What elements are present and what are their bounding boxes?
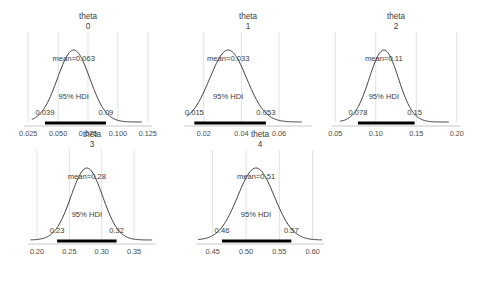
mean-label: mean=0.11 [365, 54, 403, 63]
x-tick-label: 0.05 [328, 129, 342, 138]
x-tick-label: 0.55 [272, 247, 286, 256]
x-tick-label: 0.50 [239, 247, 253, 256]
hdi-high-label: 0.57 [284, 226, 299, 235]
panel-title: theta3 [28, 130, 156, 149]
mean-label: mean=0.033 [207, 54, 249, 63]
density-plot-area [28, 150, 156, 250]
density-panel-theta-0: theta0mean=0.06395% HDI0.0390.090.0250.0… [24, 32, 152, 146]
panel-title-line2: 2 [332, 22, 460, 32]
hdi-label: 95% HDI [58, 92, 88, 101]
panel-title: theta2 [332, 12, 460, 31]
panel-title-line2: 1 [184, 22, 312, 32]
density-panel-theta-1: theta1mean=0.03395% HDI0.0150.0530.020.0… [184, 32, 312, 146]
x-axis-tick-labels: 0.050.100.150.20 [332, 129, 460, 141]
hdi-low-label: 0.46 [215, 226, 230, 235]
hdi-high-label: 0.09 [99, 108, 114, 117]
hdi-high-label: 0.32 [109, 226, 124, 235]
posterior-density-grid: theta0mean=0.06395% HDI0.0390.090.0250.0… [0, 0, 480, 283]
x-tick-label: 0.45 [206, 247, 220, 256]
x-tick-label: 0.30 [95, 247, 109, 256]
panel-title-line2: 4 [196, 140, 324, 150]
density-panel-theta-4: theta4mean=0.5195% HDI0.460.570.450.500.… [196, 150, 324, 264]
mean-label: mean=0.51 [237, 172, 275, 181]
hdi-low-label: 0.015 [185, 108, 204, 117]
density-plot-area [196, 150, 324, 250]
panel-title-line2: 0 [24, 22, 152, 32]
panel-title: theta1 [184, 12, 312, 31]
hdi-label: 95% HDI [369, 92, 399, 101]
x-axis-tick-labels: 0.450.500.550.60 [196, 247, 324, 259]
density-panel-theta-3: theta3mean=0.2895% HDI0.230.320.200.250.… [28, 150, 156, 264]
panel-title-line1: theta [83, 130, 101, 139]
mean-label: mean=0.063 [52, 54, 94, 63]
panel-title-line2: 3 [28, 140, 156, 150]
x-tick-label: 0.15 [409, 129, 423, 138]
hdi-low-label: 0.23 [50, 226, 65, 235]
hdi-label: 95% HDI [72, 210, 102, 219]
density-plot-area [184, 32, 312, 132]
hdi-low-label: 0.078 [348, 108, 367, 117]
x-tick-label: 0.35 [127, 247, 141, 256]
density-panel-theta-2: theta2mean=0.1195% HDI0.0780.150.050.100… [332, 32, 460, 146]
panel-title-line1: theta [239, 12, 257, 21]
x-tick-label: 0.20 [30, 247, 44, 256]
panel-title: theta4 [196, 130, 324, 149]
panel-title-line1: theta [251, 130, 269, 139]
density-plot-area [332, 32, 460, 132]
x-tick-label: 0.25 [62, 247, 76, 256]
hdi-low-label: 0.039 [35, 108, 54, 117]
panel-title-line1: theta [387, 12, 405, 21]
density-plot-area [24, 32, 152, 132]
mean-label: mean=0.28 [68, 172, 106, 181]
hdi-high-label: 0.15 [407, 108, 422, 117]
x-tick-label: 0.60 [306, 247, 320, 256]
x-tick-label: 0.20 [450, 129, 464, 138]
x-axis-tick-labels: 0.200.250.300.35 [28, 247, 156, 259]
x-tick-label: 0.10 [369, 129, 383, 138]
hdi-high-label: 0.053 [256, 108, 275, 117]
panel-title: theta0 [24, 12, 152, 31]
panel-title-line1: theta [79, 12, 97, 21]
hdi-label: 95% HDI [213, 92, 243, 101]
hdi-label: 95% HDI [241, 210, 271, 219]
